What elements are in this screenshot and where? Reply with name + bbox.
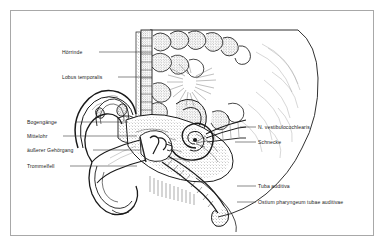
label-ostium-pharyngeum: Ostium pharyngeum tubae auditivae bbox=[258, 199, 343, 205]
label-schnecke: Schnecke bbox=[258, 139, 281, 145]
label-trommelfell: Trommelfell bbox=[27, 163, 55, 169]
label-lobus-temporalis: Lobus temporalis bbox=[62, 74, 102, 80]
anatomical-figure: Hörrinde Lobus temporalis Bogengänge Mit… bbox=[0, 0, 388, 249]
label-mittelohr: Mittelohr bbox=[27, 133, 47, 139]
label-n-vestibulocochlearis: N. vestibulocochlearis bbox=[258, 124, 310, 130]
label-aeusserer-gehoergang: äußerer Gehörgang bbox=[27, 147, 73, 153]
label-layer: Hörrinde Lobus temporalis Bogengänge Mit… bbox=[0, 0, 388, 249]
label-hoerrinde: Hörrinde bbox=[62, 49, 82, 55]
label-bogengaenge: Bogengänge bbox=[27, 119, 57, 125]
label-tuba-auditiva: Tuba auditiva bbox=[258, 183, 290, 189]
